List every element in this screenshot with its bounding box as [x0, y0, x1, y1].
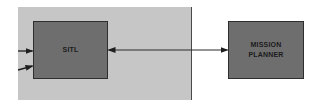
sitl-block: SITL [33, 21, 108, 79]
mission-planner-label: MISSION PLANNER [248, 40, 283, 60]
diagram-canvas: SITL MISSION PLANNER [0, 0, 320, 100]
sitl-label: SITL [63, 45, 79, 55]
mission-planner-block: MISSION PLANNER [228, 21, 304, 79]
